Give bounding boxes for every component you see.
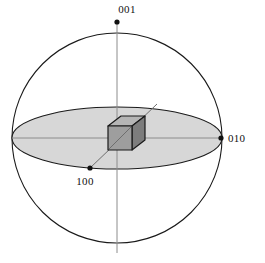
axis-010-label: 010 [228, 132, 246, 144]
axis-001-marker [114, 19, 119, 24]
axis-100-label: 100 [76, 175, 94, 187]
axis-100-marker [87, 165, 92, 170]
axis-001-label: 001 [118, 3, 135, 15]
crystal-direction-sphere-diagram: 001 010 100 [0, 0, 265, 263]
axis-010-marker [218, 135, 223, 140]
